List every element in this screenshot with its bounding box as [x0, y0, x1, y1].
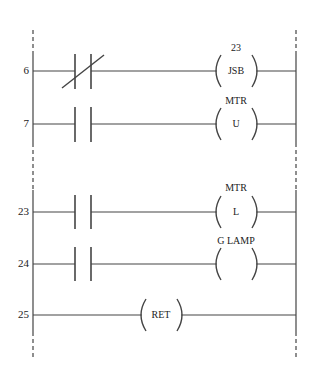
- rung-24: [33, 247, 296, 281]
- jsb-coil-text: JSB: [206, 65, 266, 76]
- rung-number-23: 23: [3, 205, 29, 217]
- rung-number-7: 7: [3, 117, 29, 129]
- mtr-u-tag-label: MTR: [206, 95, 266, 106]
- rung-number-6: 6: [3, 64, 29, 76]
- rung-number-25: 25: [3, 308, 29, 320]
- unlatch-coil-text: U: [206, 118, 266, 129]
- ret-coil-text: RET: [131, 309, 191, 320]
- mtr-l-tag-label: MTR: [206, 182, 266, 193]
- rung-number-24: 24: [3, 257, 29, 269]
- glamp-tag-label: G LAMP: [206, 235, 266, 246]
- latch-coil-text: L: [206, 206, 266, 217]
- jsb-target-label: 23: [206, 42, 266, 53]
